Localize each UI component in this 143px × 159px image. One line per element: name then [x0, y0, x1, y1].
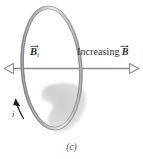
current-arrowhead-icon [13, 98, 20, 106]
arrowhead-right-icon [130, 64, 140, 74]
arrowhead-left-icon [4, 64, 14, 74]
field-initial-label: Bi [30, 47, 39, 59]
figure-container: Bi IncreasingB i (c) [0, 0, 143, 159]
field-initial-symbol: B [30, 47, 37, 58]
field-increasing-text: Increasing [77, 46, 120, 57]
figure-illustration [0, 0, 143, 159]
field-increasing-symbol: B [122, 47, 129, 57]
figure-caption: (c) [0, 142, 143, 152]
field-increasing-label: IncreasingB [77, 47, 128, 57]
induced-current-arrow [13, 98, 23, 118]
field-initial-subscript: i [37, 51, 39, 58]
current-label: i [12, 111, 14, 119]
